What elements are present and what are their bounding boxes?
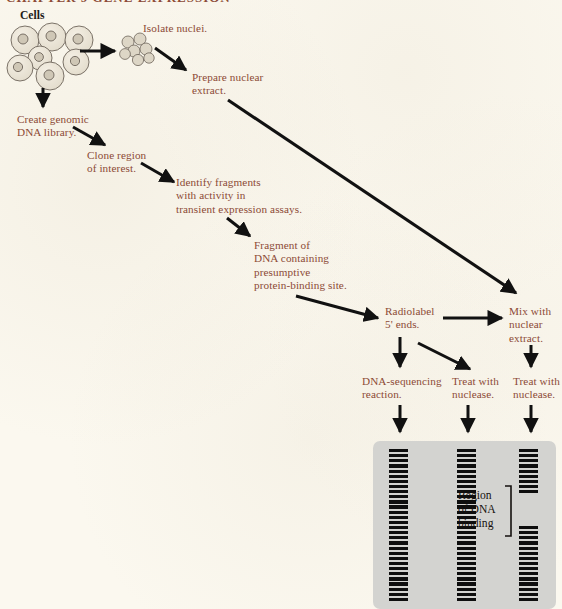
nuclei-cluster-icon: [120, 33, 155, 66]
footprint-bracket: [505, 486, 511, 536]
arrow-fragment-to-radiolabel: [296, 296, 378, 318]
figure-canvas: CHAPTER 9 GENE EXPRESSION Cells Isolate …: [0, 0, 562, 609]
arrow-radiolabel-to-nuclease: [418, 343, 470, 369]
cell-cluster-icon: [7, 23, 93, 90]
arrow-library-to-clone: [73, 127, 105, 145]
arrow-extract-to-mix: [228, 100, 516, 293]
arrow-identify-to-fragment: [227, 218, 250, 236]
diagram-vectors: [0, 0, 562, 609]
arrow-clone-to-identify: [141, 163, 174, 182]
arrow-nuclei-to-extract: [155, 48, 186, 70]
